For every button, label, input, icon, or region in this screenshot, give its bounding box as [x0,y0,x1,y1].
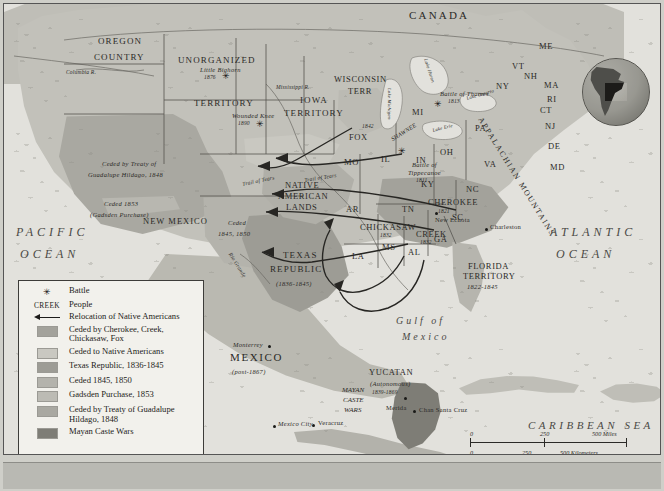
label-people-chickasaw-year: 1832 [380,233,392,239]
scale-tick-mid [544,438,545,447]
label-gulf-mexico: Mexico [402,332,449,343]
label-people-creek: CREEK [416,230,447,239]
label-battle-tippecanoe-2: Tippecanoe [408,169,441,176]
legend-swatch-guadalupe-hildago [37,406,58,417]
scale-tick-start [470,438,471,447]
label-atlantic-ocean-line1: ATLANTIC [550,226,636,239]
city-dot-monterrey [268,345,271,348]
label-state-mo: MO [344,158,359,167]
legend-label-guadalupe-hildago: Ceded by Treaty of Guadalupe Hildago, 18… [69,405,197,425]
label-city-charleston: Charleston [490,223,521,230]
label-florida-years: 1822-1845 [467,283,498,290]
city-dot-chan-santa-cruz [413,410,416,413]
legend-creek-text: CREEK [34,301,60,310]
label-state-ri: RI [547,95,557,104]
legend-swatch-ceded-to-natives [37,348,58,359]
label-state-il: IL [381,155,390,164]
label-people-fox: FOX [349,133,368,142]
label-state-va: VA [484,160,496,169]
legend-row-gadsden-purchase: Gadsden Purchase, 1853 [25,390,197,402]
globe-inset [582,58,650,126]
label-texas: TEXAS [283,251,318,261]
label-iowa: IOWA [300,96,328,106]
scale-tick-end [626,438,627,447]
label-american: AMERICAN [278,192,328,201]
map-frame: CANADA MEXICO (post-1867) PACIFIC OCEAN … [3,3,661,455]
label-gadsden-purchase: (Gadsden Purchase) [90,211,149,218]
legend-label-people: People [69,300,92,310]
map-page: CANADA MEXICO (post-1867) PACIFIC OCEAN … [0,0,664,491]
legend-key-ceded-by-tribes [25,325,69,337]
city-dot-mexico-city [273,425,276,428]
label-texas-republic: REPUBLIC [270,265,322,275]
scale-miles-0: 0 [470,430,473,437]
page-footer-bar [3,462,661,489]
scale-km-0: 0 [470,449,473,455]
label-country-mexico: MEXICO [230,352,283,364]
label-state-la: LA [352,252,365,261]
label-country-canada: CANADA [409,10,469,22]
label-state-de: DE [548,142,561,151]
battle-star-wounded-knee: ✳ [256,120,264,129]
legend-swatch-mayan-caste-wars [37,428,58,439]
label-caste: CASTE [343,397,364,405]
label-state-nc: NC [466,185,479,194]
label-yucatan-autonomous: (Autonomous) [370,380,410,387]
label-state-nj: NJ [545,122,556,131]
label-state-ma: MA [544,81,559,90]
label-yucatan: YUCATAN [369,368,413,377]
label-city-mexico-city: Mexico City [278,420,313,427]
label-battle-thames-year: 1813 [448,99,460,105]
battle-star-icon: ✳ [43,287,51,297]
legend-row-relocation: Relocation of Native Americans [25,312,197,322]
label-battle-wounded-knee: Wounded Knee [232,112,275,119]
label-florida-territory: TERRITORY [463,272,515,281]
label-city-monterrey: Monterrey [233,341,263,348]
scale-bar: 0 250 500 Miles 0 250 500 Kilometers [470,438,630,447]
legend-label-relocation: Relocation of Native Americans [69,312,180,322]
label-city-merida: Merida [386,404,407,411]
label-battle-little-bighorn-year: 1876 [204,75,216,81]
label-battle-little-bighorn: Little Bighorn [200,66,241,73]
label-state-nh: NH [524,72,537,81]
label-people-creek-year: 1832 [420,240,432,246]
label-atlantic-ocean-line2: OCEAN [556,248,615,261]
legend-label-texas-republic: Texas Republic, 1836-1845 [69,361,164,371]
label-lake-michigan: Lake Michigan [387,88,392,120]
label-city-new-echota: New Echota [435,216,470,223]
legend-key-gadsden-purchase [25,390,69,402]
legend-key-guadalupe-hildago [25,405,69,417]
label-river-mississippi: Mississippi R. [276,85,310,91]
label-oregon-country: COUNTRY [94,53,145,63]
label-state-md: MD [550,163,565,172]
battle-star-thames: ✳ [434,100,442,109]
legend-key-people: CREEK [25,300,69,310]
label-battle-tippecanoe-year: 1811 [416,178,427,184]
relocation-arrow-icon [34,313,60,322]
city-dot-charleston [485,228,488,231]
label-state-oh: OH [440,148,453,157]
globe-graticule [583,59,649,125]
legend-key-battle: ✳ [25,286,69,297]
city-dot-merida [404,397,407,400]
legend-label-ceded-1845-1850: Ceded 1845, 1850 [69,376,132,386]
label-state-ct: CT [540,106,552,115]
label-battle-wounded-knee-year: 1890 [238,121,250,127]
legend-key-mayan-caste-wars [25,427,69,439]
legend-label-mayan-caste-wars: Mayan Caste Wars [69,427,134,437]
legend-swatch-gadsden-purchase [37,391,58,402]
legend-key-texas-republic [25,361,69,373]
label-city-chan-santa-cruz: Chan Santa Cruz [419,406,468,413]
label-people-cherokee-year: 1821 [438,209,450,215]
label-river-columbia: Columbia R. [66,70,96,76]
label-state-me: ME [539,42,553,51]
legend-key-relocation [25,312,69,322]
label-unorganized: UNORGANIZED [178,56,256,66]
label-yucatan-years: 1839-1869 [372,390,398,396]
legend-row-texas-republic: Texas Republic, 1836-1845 [25,361,197,373]
label-people-fox-year: 1842 [362,124,374,130]
label-texas-republic-years: (1836-1845) [276,280,312,287]
label-state-ny: NY [496,82,509,91]
label-mayan: MAYAN [342,387,364,395]
label-state-vt: VT [512,62,525,71]
